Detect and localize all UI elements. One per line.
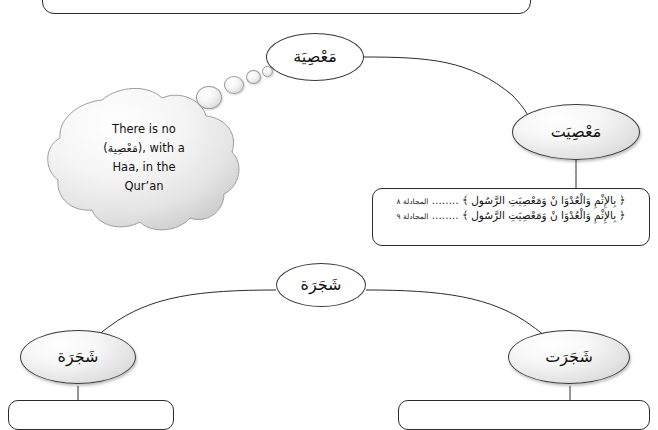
thought-bubble-small	[246, 70, 261, 84]
verse-text-2: ﴿ بِالإِثْمِ وَالْعُدْوَا نْ وَمَعْصِيَت…	[462, 209, 626, 221]
cloud-line-4: Qur’an	[68, 177, 220, 196]
thought-bubble-medium	[224, 76, 244, 94]
bottom-box-right	[398, 400, 650, 430]
verse-ref-2: المجادلة ٩	[397, 212, 429, 221]
cloud-line-1: There is no	[68, 120, 220, 139]
node-shajara[interactable]: شَجَرَة	[276, 263, 366, 307]
top-section-container	[42, 0, 531, 14]
verse-dots-2: ........	[432, 209, 459, 221]
bottom-box-left	[8, 400, 174, 430]
verse-dots-1: ........	[432, 194, 459, 206]
verse-text-1: ﴿ بِالإِثْمِ وَالْعُدْوَا نْ وَمَعْصِيَت…	[462, 194, 626, 206]
cloud-line-3: Haa, in the	[68, 158, 220, 177]
cloud-line-2-arabic: مَعْصِية	[108, 142, 138, 155]
node-shajarah-left-label: شَجَرَة	[58, 349, 99, 365]
node-masiyat-label: مَعْصِيَت	[551, 124, 602, 140]
verse-citation-box: ﴿ بِالإِثْمِ وَالْعُدْوَا نْ وَمَعْصِيَت…	[372, 188, 650, 246]
node-shajarah-left[interactable]: شَجَرَة	[20, 330, 136, 384]
node-masiya-label: مَعْصِيَة	[293, 49, 337, 65]
node-masiyat[interactable]: مَعْصِيَت	[512, 104, 640, 160]
thought-bubble-large	[196, 86, 222, 109]
verse-line-2: ﴿ بِالإِثْمِ وَالْعُدْوَا نْ وَمَعْصِيَت…	[381, 209, 641, 222]
node-shajarat-right[interactable]: شَجَرَت	[508, 330, 630, 384]
verse-line-1: ﴿ بِالإِثْمِ وَالْعُدْوَا نْ وَمَعْصِيَت…	[381, 194, 641, 207]
cloud-line-2-post: ), with a	[138, 141, 185, 155]
node-shajarat-right-label: شَجَرَت	[545, 349, 593, 365]
cloud-line-2: (مَعْصِية), with a	[68, 139, 220, 158]
thought-cloud-text: There is no (مَعْصِية), with a Haa, in t…	[68, 120, 220, 196]
thought-bubble-tiny	[262, 66, 273, 77]
node-masiya[interactable]: مَعْصِيَة	[266, 33, 364, 81]
verse-ref-1: المجادلة ٨	[397, 197, 429, 206]
node-shajara-label: شَجَرَة	[301, 277, 342, 293]
